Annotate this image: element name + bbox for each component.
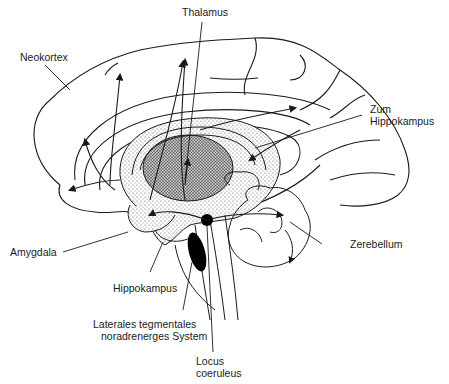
- brain-diagram: Thalamus Neokortex Zum Hippokampus Amygd…: [0, 0, 449, 384]
- label-lateral-1: Laterales tegmentales: [93, 318, 196, 330]
- label-neokortex: Neokortex: [20, 51, 68, 63]
- label-amygdala: Amygdala: [10, 246, 57, 258]
- label-zum: Zum: [370, 103, 391, 115]
- label-zerebellum: Zerebellum: [350, 238, 403, 250]
- lateral-tegmental-nucleus: [184, 231, 210, 274]
- label-locus: Locus: [196, 355, 224, 367]
- label-lateral-2: noradrenerges System: [101, 330, 207, 342]
- label-zum-hippokampus: Hippokampus: [370, 115, 434, 127]
- thalamus-shape: [143, 135, 233, 201]
- label-thalamus: Thalamus: [182, 6, 228, 18]
- label-hippokampus: Hippokampus: [113, 282, 177, 294]
- label-coeruleus: coeruleus: [196, 367, 242, 379]
